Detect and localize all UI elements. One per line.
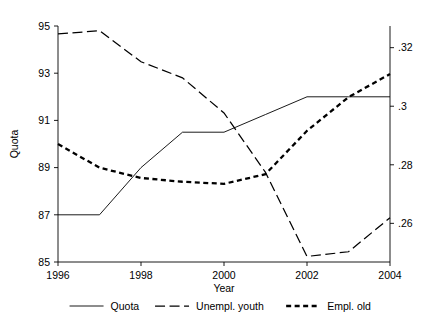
- x-axis-tick-label: 1998: [129, 269, 153, 281]
- y2-axis-tick-label: .3: [398, 100, 407, 112]
- x-axis-tick-label: 2002: [295, 269, 319, 281]
- x-axis-tick-label: 2004: [378, 269, 402, 281]
- legend-label-quota: Quota: [111, 300, 140, 312]
- x-axis-tick-label: 1996: [46, 269, 70, 281]
- line-chart: 858789919395.26.28.3.3219961998200020022…: [0, 0, 441, 327]
- x-axis-title: Year: [213, 282, 235, 294]
- plot-frame: [58, 26, 390, 262]
- legend-label-unempl-youth: Unempl. youth: [196, 300, 264, 312]
- series-line-unempl-youth: [58, 31, 390, 257]
- y2-axis-tick-label: .32: [398, 41, 413, 53]
- y-axis-tick-label: 87: [38, 209, 50, 221]
- y-axis-tick-label: 95: [38, 20, 50, 32]
- y2-axis-tick-label: .26: [398, 217, 413, 229]
- y-axis-title: Quota: [8, 130, 20, 159]
- y-axis-tick-label: 93: [38, 67, 50, 79]
- chart-container: 858789919395.26.28.3.3219961998200020022…: [0, 0, 441, 327]
- y2-axis-tick-label: .28: [398, 159, 413, 171]
- y-axis-tick-label: 85: [38, 256, 50, 268]
- y-axis-tick-label: 89: [38, 161, 50, 173]
- x-axis-tick-label: 2000: [212, 269, 236, 281]
- series-line-quota: [58, 97, 390, 215]
- series-line-empl-old: [58, 74, 390, 184]
- y-axis-tick-label: 91: [38, 114, 50, 126]
- legend-label-empl-old: Empl. old: [327, 300, 371, 312]
